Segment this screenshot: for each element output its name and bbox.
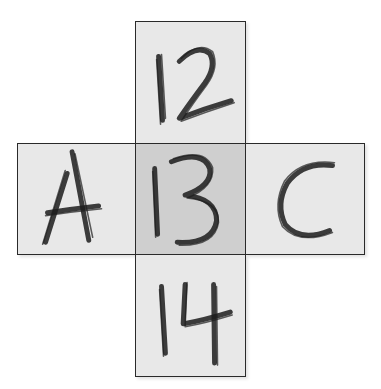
cell-top-12: 12 bbox=[135, 21, 246, 144]
cell-left-A: A bbox=[17, 143, 136, 255]
cell-bottom-14: 14 bbox=[135, 254, 246, 377]
handwritten-14-glyph bbox=[136, 255, 245, 376]
cell-right-C: C bbox=[245, 143, 365, 255]
cell-center-B-13: 13 bbox=[135, 143, 246, 255]
handwritten-A-glyph bbox=[18, 144, 135, 254]
handwritten-13-B-glyph bbox=[136, 144, 245, 254]
handwritten-C-glyph bbox=[246, 144, 364, 254]
handwritten-12-glyph bbox=[136, 22, 245, 143]
